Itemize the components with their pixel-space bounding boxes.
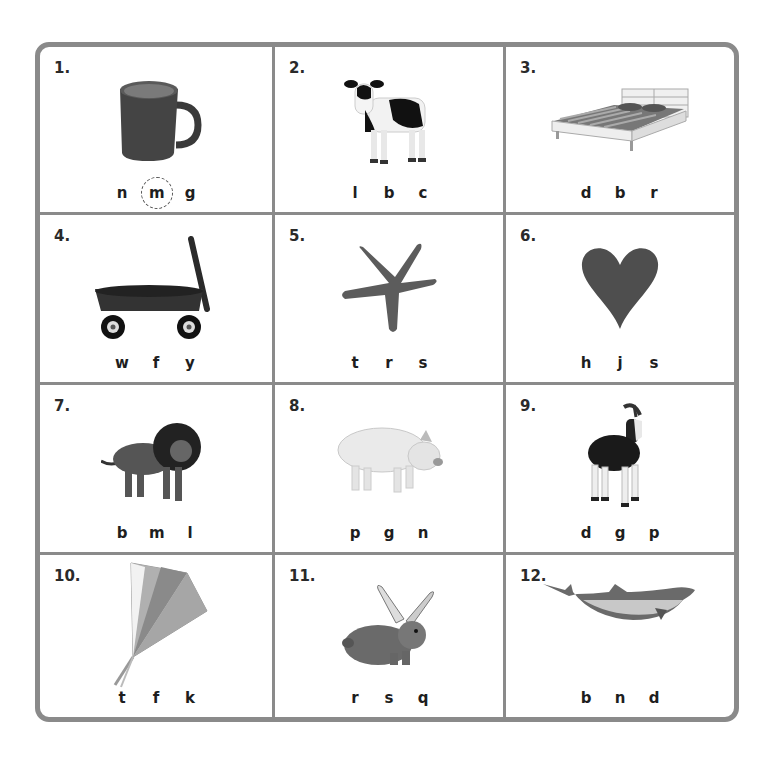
letter-choice[interactable]: r [348, 689, 362, 707]
letter-choice[interactable]: g [183, 184, 197, 202]
letter-choice[interactable]: f [149, 689, 163, 707]
item-number: 10. [54, 567, 81, 585]
letter-choice[interactable]: s [416, 354, 430, 372]
letter-choice[interactable]: k [183, 689, 197, 707]
item-number: 1. [54, 59, 70, 77]
wagon-icon [86, 233, 226, 343]
letter-choice[interactable]: j [613, 354, 627, 372]
item-number: 8. [289, 397, 305, 415]
letter-choices: t f k [40, 689, 272, 707]
letter-choice[interactable]: b [382, 184, 396, 202]
letter-choice[interactable]: r [382, 354, 396, 372]
item-number: 5. [289, 227, 305, 245]
letter-choice[interactable]: n [115, 184, 129, 202]
letter-choices: d g p [506, 524, 734, 542]
letter-choice[interactable]: s [647, 354, 661, 372]
letter-choice[interactable]: l [348, 184, 362, 202]
letter-choices: p g n [275, 524, 503, 542]
item-number: 2. [289, 59, 305, 77]
item-number: 9. [520, 397, 536, 415]
heart-icon [560, 233, 680, 343]
letter-choice[interactable]: b [613, 184, 627, 202]
item-9: 9. d [506, 385, 734, 555]
letter-choices: b m l [40, 524, 272, 542]
item-number: 6. [520, 227, 536, 245]
letter-choices: h j s [506, 354, 734, 372]
letter-choice[interactable]: d [579, 524, 593, 542]
worksheet: 1. n m g 2. [35, 42, 739, 722]
item-12: 12. b n d [506, 555, 734, 717]
dolphin-icon [540, 573, 700, 643]
item-number: 11. [289, 567, 316, 585]
item-number: 4. [54, 227, 70, 245]
mug-icon [96, 65, 216, 175]
letter-choice[interactable]: d [647, 689, 661, 707]
item-6: 6. h j s [506, 215, 734, 385]
letter-choice[interactable]: n [416, 524, 430, 542]
letter-choice[interactable]: m [149, 524, 163, 542]
letter-choice[interactable]: d [579, 184, 593, 202]
letter-choice[interactable]: q [416, 689, 430, 707]
pig-icon [329, 403, 449, 513]
letter-choice[interactable]: t [115, 689, 129, 707]
letter-choices: w f y [40, 354, 272, 372]
rabbit-icon [329, 573, 449, 683]
item-2: 2. [275, 47, 506, 215]
letter-choices: b n d [506, 689, 734, 707]
letter-choice-circled[interactable]: m [149, 184, 163, 202]
item-4: 4. w f y [40, 215, 275, 385]
letter-choice[interactable]: t [348, 354, 362, 372]
item-number: 7. [54, 397, 70, 415]
lion-icon [96, 403, 216, 513]
letter-choice[interactable]: p [348, 524, 362, 542]
letter-choice[interactable]: f [149, 354, 163, 372]
letter-choice[interactable]: c [416, 184, 430, 202]
letter-choice[interactable]: b [579, 689, 593, 707]
item-7: 7. b m l [40, 385, 275, 555]
goat-icon [560, 403, 680, 513]
item-10: 10. t f k [40, 555, 275, 717]
letter-choice[interactable]: l [183, 524, 197, 542]
letter-choice[interactable]: g [613, 524, 627, 542]
cow-icon [329, 65, 449, 175]
letter-choices: l b c [275, 184, 503, 202]
item-5: 5. t r s [275, 215, 506, 385]
starfish-icon [329, 233, 449, 343]
item-number: 3. [520, 59, 536, 77]
letter-choice[interactable]: w [115, 354, 129, 372]
letter-choice[interactable]: b [115, 524, 129, 542]
letter-choices: n m g [40, 184, 272, 202]
item-8: 8. p g n [275, 385, 506, 555]
letter-choice[interactable]: s [382, 689, 396, 707]
letter-choices: t r s [275, 354, 503, 372]
letter-choice[interactable]: r [647, 184, 661, 202]
kite-icon [96, 559, 216, 689]
letter-choices: d b r [506, 184, 734, 202]
letter-choices: r s q [275, 689, 503, 707]
item-11: 11. r s q [275, 555, 506, 717]
item-3: 3. d b [506, 47, 734, 215]
letter-choice[interactable]: y [183, 354, 197, 372]
letter-choice[interactable]: h [579, 354, 593, 372]
letter-choice[interactable]: g [382, 524, 396, 542]
letter-choice[interactable]: n [613, 689, 627, 707]
worksheet-grid: 1. n m g 2. [40, 47, 734, 717]
letter-choice[interactable]: p [647, 524, 661, 542]
bed-icon [545, 65, 695, 175]
item-1: 1. n m g [40, 47, 275, 215]
